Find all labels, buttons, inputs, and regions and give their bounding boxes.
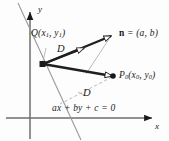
guide-q-label-pointer <box>43 48 46 61</box>
x-axis-label: x <box>155 122 159 131</box>
distance-label-upper: D <box>57 44 65 55</box>
point-label-p0: P0(x0, y0) <box>119 71 155 81</box>
normal-vector-label: n = (a, b) <box>119 29 158 39</box>
vectors-group <box>43 36 112 76</box>
vector-q-to-p0 <box>43 64 112 76</box>
line-ax-by-c-zero <box>18 3 81 140</box>
distance-label-lower: D <box>83 88 91 99</box>
point-marker-q <box>40 61 46 67</box>
point-label-q: Q(x1, y1) <box>31 29 65 39</box>
distance-point-line-diagram: y x Q(x1, y1) P0(x0, y0) n = (a, b) D D … <box>0 0 169 141</box>
y-axis-label: y <box>38 5 42 14</box>
point-marker-p0 <box>110 73 116 79</box>
line-equation-label: ax + by + c = 0 <box>52 104 115 114</box>
